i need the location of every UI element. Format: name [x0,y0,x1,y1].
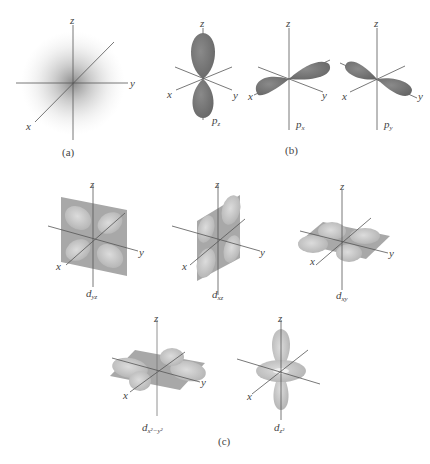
x-axis-label: x [166,88,172,100]
px-orbital-diagram: z x y px [247,17,330,132]
z-axis-label: z [373,17,379,29]
pz-orbital-diagram: z x y pz [166,17,238,128]
x-axis-label: x [181,260,187,272]
py-right-lobe [377,78,412,96]
pz-lower-lobe [192,79,213,118]
caption-a: (a) [62,146,75,159]
z-axis-label: z [277,312,283,324]
y-axis-label: y [388,247,394,259]
dxy-label: dxy [336,289,349,303]
x-axis-label: x [122,389,128,401]
y-axis-label: y [129,77,135,89]
x-axis-label: x [341,90,347,102]
pz-upper-lobe [191,33,215,79]
dz2-orbital-diagram: z x dz² [237,312,320,435]
s-orbital-diagram: z y x (a) [16,14,135,159]
y-axis-label: y [321,89,327,101]
z-axis-label: z [214,178,220,190]
py-left-lobe [345,62,377,80]
dxz-orbital-diagram: z x y dxz [172,178,265,302]
y-axis-label: y [200,376,206,388]
dyz-label: dyz [86,287,98,301]
pz-label: pz [211,114,221,128]
py-label: py [383,118,394,132]
y-axis-label: y [138,246,144,258]
px-label: px [295,118,306,132]
dyz-orbital-diagram: z x y dyz [48,178,144,301]
x-axis-label: x [309,255,315,267]
caption-b: (b) [285,144,298,157]
x-axis-label: x [246,390,252,402]
z-axis-label: z [199,17,205,29]
y-axis-label: y [417,90,423,102]
py-orbital-diagram: z x y py [340,17,423,132]
y-axis-label: y [232,89,238,101]
x-axis-label: x [55,260,61,272]
dz2-label: dz² [274,421,285,435]
z-axis-label: z [339,180,345,192]
caption-c: (c) [218,435,231,448]
z-axis-label: z [285,17,291,29]
z-axis-label: z [69,14,75,26]
dxy-orbital-diagram: z x y dxy [298,180,394,303]
x-axis-label: x [25,120,31,132]
px-left-lobe [256,77,289,96]
orbital-figure: z y x (a) z x y pz z x y px z x y p [0,0,430,464]
dx2-y2-orbital-diagram: z x y dx²−y² [110,312,207,435]
y-axis-label: y [259,246,265,258]
px-right-lobe [289,62,330,80]
x-axis-label: x [247,90,253,102]
dx2-y2-label: dx²−y² [142,421,164,435]
z-axis-label: z [153,312,159,324]
z-axis-label: z [89,178,95,190]
